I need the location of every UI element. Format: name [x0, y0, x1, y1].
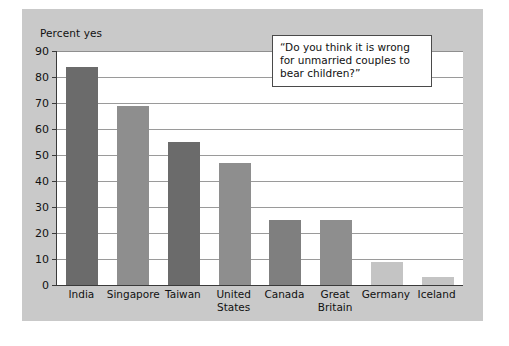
- y-axis-tick-label: 50: [35, 149, 49, 162]
- x-axis-label: Singapore: [107, 288, 158, 301]
- callout-text: “Do you think it is wrong for unmarried …: [280, 41, 410, 79]
- y-axis-tick-label: 90: [35, 45, 49, 58]
- bar-slot: [159, 51, 210, 285]
- bar: [371, 262, 403, 285]
- bar-slot: [209, 51, 260, 285]
- y-axis-tick-label: 80: [35, 71, 49, 84]
- bar: [168, 142, 200, 285]
- y-axis-tick-label: 0: [42, 279, 49, 292]
- y-axis-tick-label: 10: [35, 253, 49, 266]
- bar: [269, 220, 301, 285]
- y-axis-tick-label: 20: [35, 227, 49, 240]
- y-axis-tick: [52, 285, 57, 286]
- y-axis-tick-label: 70: [35, 97, 49, 110]
- y-axis-title: Percent yes: [40, 27, 102, 39]
- x-axis-label: India: [56, 288, 107, 301]
- x-axis-label: Iceland: [411, 288, 462, 301]
- bar: [66, 67, 98, 285]
- bar-slot: [108, 51, 159, 285]
- bar-chart-figure: Percent yes 0102030405060708090 IndiaSin…: [0, 0, 509, 346]
- y-axis-tick-label: 30: [35, 201, 49, 214]
- y-axis-tick-label: 60: [35, 123, 49, 136]
- x-axis-label: Great Britain: [310, 288, 361, 313]
- x-axis-label: United States: [208, 288, 259, 313]
- bar: [422, 277, 454, 285]
- bar: [219, 163, 251, 285]
- bar-slot: [57, 51, 108, 285]
- bar: [320, 220, 352, 285]
- x-axis-label: Taiwan: [158, 288, 209, 301]
- x-axis-label: Canada: [259, 288, 310, 301]
- x-axis-label: Germany: [361, 288, 412, 301]
- y-axis-tick-label: 40: [35, 175, 49, 188]
- question-callout: “Do you think it is wrong for unmarried …: [272, 35, 432, 87]
- bar: [117, 106, 149, 285]
